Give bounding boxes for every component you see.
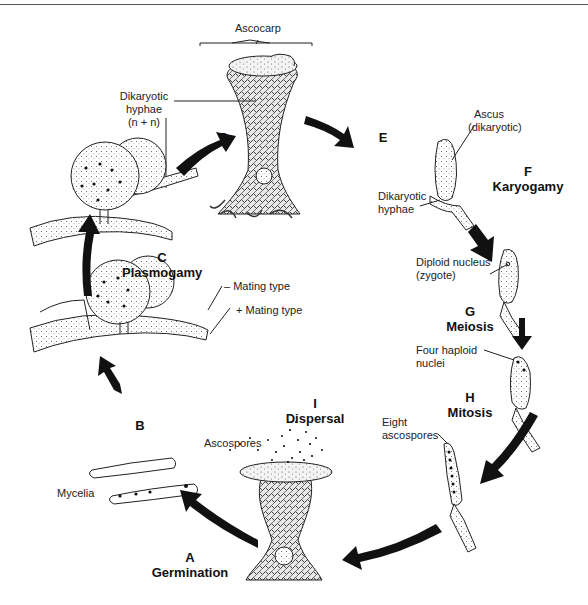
pointer-line bbox=[210, 308, 230, 334]
step-e: E bbox=[373, 130, 393, 145]
diploid-nucleus-label: Diploid nucleus (zygote) bbox=[416, 256, 491, 282]
ascus-label: Ascus (dikaryotic) bbox=[468, 108, 522, 134]
mycelia-label: Mycelia bbox=[57, 487, 94, 500]
four-haploid-nuclei-label: Four haploid nuclei bbox=[416, 344, 477, 370]
mycelia-structure bbox=[89, 458, 197, 504]
ascocarp-label: Ascocarp bbox=[235, 22, 281, 35]
arrow-a bbox=[180, 490, 258, 548]
step-i-dispersal: I Dispersal bbox=[275, 396, 355, 426]
dikaryotic-hyphae-top-label: Dikaryotic hyphae (n + n) bbox=[114, 90, 174, 129]
life-cycle-artwork bbox=[0, 0, 588, 605]
arrow-b bbox=[98, 356, 122, 394]
step-c-plasmogamy: C Plasmogamy bbox=[122, 250, 202, 280]
dikaryotic-hyphae-right-label: Dikaryotic hyphae bbox=[378, 190, 426, 216]
ascus-dikaryotic-structure bbox=[430, 139, 474, 230]
ascospores-label: Ascospores bbox=[204, 437, 261, 450]
minus-mating-type-label: – Mating type bbox=[224, 280, 290, 293]
plasmogamy-structure bbox=[30, 138, 198, 246]
pointer-line bbox=[438, 434, 448, 444]
arrow-e bbox=[304, 116, 354, 148]
step-h-mitosis: H Mitosis bbox=[430, 390, 510, 420]
step-g-meiosis: G Meiosis bbox=[430, 304, 510, 334]
pointer-line bbox=[208, 286, 222, 310]
step-b: B bbox=[130, 418, 150, 433]
step-d: D bbox=[214, 130, 234, 145]
step-f-karyogamy: F Karyogamy bbox=[488, 164, 568, 194]
pointer-line bbox=[484, 350, 514, 360]
ascocarp-top bbox=[200, 40, 312, 218]
arrow-i bbox=[342, 524, 442, 570]
plus-mating-type-label: + Mating type bbox=[236, 304, 302, 317]
step-a-germination: A Germination bbox=[150, 550, 230, 580]
ascus-eight-spores-structure bbox=[444, 443, 476, 552]
